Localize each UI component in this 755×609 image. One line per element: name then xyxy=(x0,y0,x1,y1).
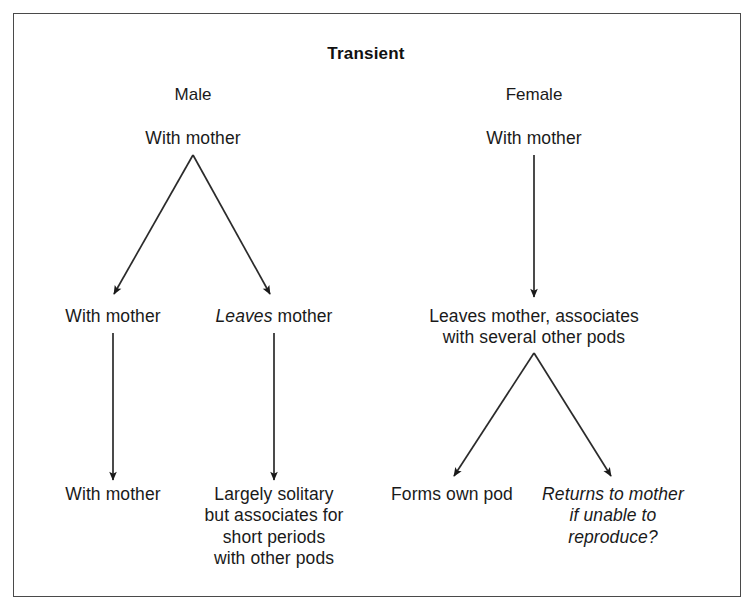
node-male-left-leaf: With mother xyxy=(65,484,160,505)
transient-killer-whale-social-structure-diagram: Transient Male Female With mother With m… xyxy=(0,0,755,609)
column-header-male: Male xyxy=(175,85,212,105)
arrow-female-mid-to-left xyxy=(454,353,534,476)
node-female-right-leaf: Returns to mother if unable to reproduce… xyxy=(542,484,684,548)
column-header-female: Female xyxy=(506,85,563,105)
node-male-right-leaf: Largely solitary but associates for shor… xyxy=(205,484,344,569)
node-male-right-mid-emphasis: Leaves xyxy=(215,306,272,326)
arrow-male-root-to-right xyxy=(193,155,270,294)
arrow-female-mid-to-right xyxy=(534,353,611,476)
node-male-right-mid: Leaves mother xyxy=(215,306,332,327)
diagram-title: Transient xyxy=(327,44,404,64)
node-female-left-leaf: Forms own pod xyxy=(391,484,513,505)
node-female-mid: Leaves mother, associates with several o… xyxy=(429,306,639,349)
node-male-left-mid: With mother xyxy=(65,306,160,327)
arrow-male-root-to-left xyxy=(114,155,193,294)
node-female-root: With mother xyxy=(486,128,581,149)
node-male-right-mid-rest: mother xyxy=(273,306,333,326)
node-male-root: With mother xyxy=(145,128,240,149)
